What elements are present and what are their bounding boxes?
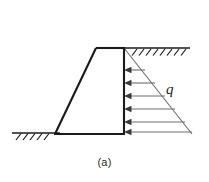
pressure-arrowhead-2	[124, 80, 132, 86]
pressure-arrowhead-1	[124, 67, 132, 73]
pressure-envelope-line	[124, 48, 192, 134]
hatch-tick	[139, 49, 144, 56]
wall-sloped-face	[55, 48, 96, 134]
wall-body-outline	[54, 47, 125, 135]
pressure-arrowhead-4	[124, 106, 132, 112]
left-ground-surface-group	[12, 133, 60, 140]
figure-caption: (a)	[0, 156, 209, 168]
retaining-wall-diagram	[0, 0, 209, 182]
right-ground-hatching	[132, 49, 186, 56]
hatch-tick	[23, 134, 28, 141]
left-ground-hatching	[16, 134, 49, 141]
hatch-tick	[153, 49, 158, 56]
hatch-tick	[132, 49, 137, 56]
hatch-tick	[30, 134, 35, 141]
pressure-envelope-group	[124, 48, 192, 134]
hatch-tick	[146, 49, 151, 56]
hatch-tick	[160, 49, 165, 56]
pressure-arrowhead-5	[124, 119, 132, 125]
pressure-arrowhead-3	[124, 93, 132, 99]
pressure-arrowhead-6	[124, 129, 132, 135]
hatch-tick	[44, 134, 49, 141]
figure-container: q (a)	[0, 0, 209, 182]
hatch-tick	[174, 49, 179, 56]
hatch-tick	[16, 134, 21, 141]
hatch-tick	[181, 49, 186, 56]
pressure-arrowheads-group	[124, 67, 132, 135]
hatch-tick	[167, 49, 172, 56]
hatch-tick	[37, 134, 42, 141]
right-ground-surface-group	[124, 48, 190, 56]
load-label-q: q	[166, 82, 174, 97]
